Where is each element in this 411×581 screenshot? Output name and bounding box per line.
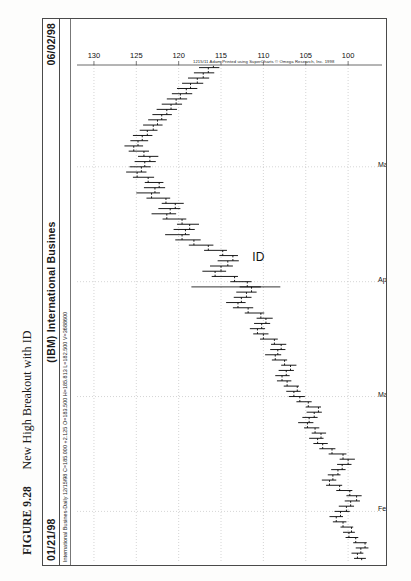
chart-titlebar: 01/21/98 (IBM) International Busines 06/… bbox=[43, 19, 60, 565]
figure-title: New High Breakout with ID bbox=[20, 330, 34, 469]
ohlc-chart-svg: 130125120115110105100FebMarAprMayID bbox=[71, 19, 386, 565]
id-annotation-label: ID bbox=[252, 250, 264, 264]
quote-stats-line: International Busines-Daily 12/15/98 C=1… bbox=[62, 312, 68, 565]
svg-text:125: 125 bbox=[130, 51, 143, 60]
svg-text:May: May bbox=[378, 161, 386, 169]
chart-start-date: 01/21/98 bbox=[45, 519, 57, 565]
chart-plot-area: 130125120115110105100FebMarAprMayID bbox=[71, 19, 386, 565]
chart-symbol-title: (IBM) International Busines bbox=[45, 65, 57, 518]
figure-caption: FIGURE 9.28 New High Breakout with ID bbox=[20, 330, 35, 555]
chart-quote-stats: International Busines-Daily 12/15/98 C=1… bbox=[60, 19, 71, 565]
figure-number: FIGURE 9.28 bbox=[21, 486, 33, 555]
chart-window: 01/21/98 (IBM) International Busines 06/… bbox=[42, 18, 387, 566]
svg-text:Mar: Mar bbox=[378, 391, 386, 398]
copyright-text: 1215/11 Adam Printed using SuperCharts ©… bbox=[193, 59, 334, 64]
figure-page: FIGURE 9.28 New High Breakout with ID 01… bbox=[0, 0, 411, 581]
svg-text:130: 130 bbox=[88, 51, 101, 60]
svg-text:100: 100 bbox=[342, 51, 355, 60]
svg-text:Feb: Feb bbox=[378, 505, 386, 512]
svg-text:120: 120 bbox=[172, 51, 185, 60]
chart-end-date: 06/02/98 bbox=[45, 19, 57, 65]
svg-text:Apr: Apr bbox=[378, 276, 386, 284]
